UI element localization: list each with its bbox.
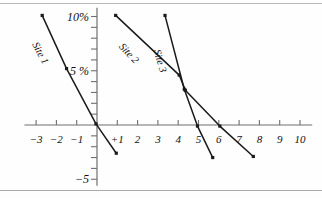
x-axis-tick-label: 3: [155, 134, 161, 145]
x-axis-tick-label: 4: [175, 134, 181, 145]
axes-group: [24, 8, 312, 186]
chart-figure: −3−2−1+1234567891010%5 %−5 Site 1Site 2S…: [0, 0, 322, 198]
x-axis-tick-label: 5: [196, 134, 202, 145]
x-axis-tick-label: 9: [277, 134, 283, 145]
x-axis-tick-label: 10: [295, 134, 306, 145]
data-point-marker[interactable]: [114, 14, 117, 17]
x-axis-tick-label: +1: [111, 134, 124, 145]
y-axis-tick-label: −5: [53, 174, 89, 185]
line-chart-plot: [0, 0, 322, 198]
x-axis-tick-label: −3: [30, 134, 43, 145]
y-axis-tick-label: 10%: [53, 11, 89, 22]
data-point-marker[interactable]: [41, 14, 44, 17]
x-axis-tick-label: 8: [257, 134, 263, 145]
x-axis-tick-label: 2: [135, 134, 141, 145]
x-axis-tick-label: −2: [50, 134, 63, 145]
data-point-marker[interactable]: [163, 14, 166, 17]
series-line-3: [165, 15, 213, 157]
data-point-marker[interactable]: [252, 155, 255, 158]
x-axis-tick-label: 7: [236, 134, 242, 145]
data-point-marker[interactable]: [218, 124, 221, 127]
x-axis-tick-label: 6: [216, 134, 222, 145]
x-axis-tick-label: −1: [70, 134, 83, 145]
data-point-marker[interactable]: [94, 122, 97, 125]
data-point-marker[interactable]: [196, 124, 199, 127]
y-axis-tick-label: 5 %: [53, 65, 89, 76]
data-point-marker[interactable]: [115, 152, 118, 155]
data-point-marker[interactable]: [183, 88, 186, 91]
data-point-marker[interactable]: [211, 156, 214, 159]
